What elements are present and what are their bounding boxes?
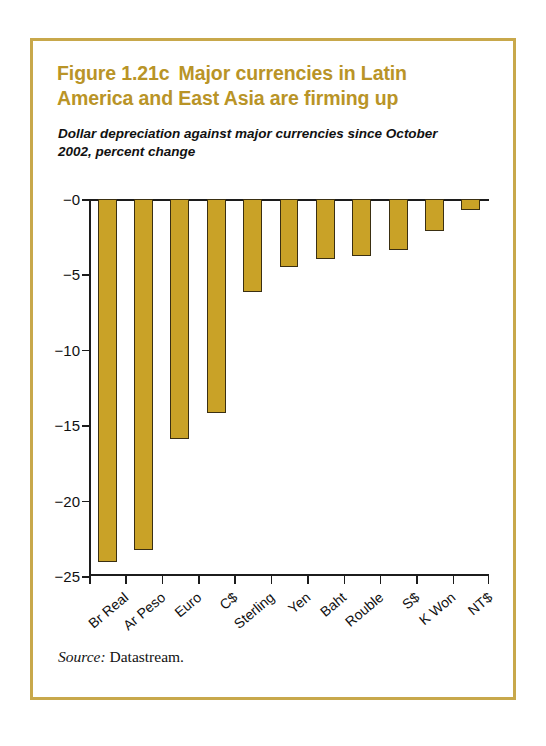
x-tick-mark	[198, 576, 200, 584]
x-tick-mark	[380, 576, 382, 584]
x-tick-mark	[344, 576, 346, 584]
chart-canvas: −0−5−10−15−20−25 Br RealAr PesoEuroC$Ste…	[33, 41, 513, 697]
x-tick-label: NT$	[465, 589, 496, 618]
x-tick-mark	[488, 576, 490, 584]
y-tick-label: −10	[55, 341, 80, 358]
x-tick-mark	[307, 576, 309, 584]
y-tick-mark	[82, 274, 89, 276]
bar	[352, 199, 371, 256]
source-note: Source: Datastream.	[58, 648, 184, 666]
plot-area: −0−5−10−15−20−25 Br RealAr PesoEuroC$Ste…	[89, 199, 489, 576]
source-value: Datastream.	[110, 648, 184, 665]
x-tick-label: Euro	[171, 589, 204, 620]
x-tick-mark	[162, 576, 164, 584]
x-axis-line	[89, 574, 489, 576]
bar	[280, 199, 299, 267]
y-tick-mark	[82, 425, 89, 427]
x-tick-label: Rouble	[342, 589, 386, 630]
bar	[98, 199, 117, 562]
source-label: Source:	[58, 648, 106, 665]
bar	[316, 199, 335, 259]
figure-frame: Figure 1.21cMajor currencies in Latin Am…	[30, 38, 516, 700]
y-tick-mark	[82, 199, 89, 201]
bar	[425, 199, 444, 231]
bar	[207, 199, 226, 413]
x-tick-mark	[234, 576, 236, 584]
bar	[243, 199, 262, 292]
y-tick-mark	[82, 350, 89, 352]
x-tick-label: C$	[217, 589, 241, 613]
x-tick-mark	[125, 576, 127, 584]
x-tick-mark	[271, 576, 273, 584]
bar	[461, 199, 480, 210]
x-tick-label: Yen	[285, 589, 313, 616]
y-tick-label: −25	[55, 568, 80, 585]
y-axis-line	[89, 199, 91, 576]
x-tick-mark	[416, 576, 418, 584]
bar	[170, 199, 189, 439]
bar	[134, 199, 153, 550]
y-tick-label: −5	[63, 266, 80, 283]
x-tick-mark	[89, 576, 91, 584]
y-tick-label: −15	[55, 417, 80, 434]
x-tick-mark	[453, 576, 455, 584]
x-tick-label: S$	[399, 589, 422, 612]
y-tick-mark	[82, 501, 89, 503]
bar	[389, 199, 408, 250]
y-tick-label: −20	[55, 492, 80, 509]
x-tick-label: K Won	[416, 589, 458, 628]
y-tick-label: −0	[63, 191, 80, 208]
x-tick-label: Sterling	[230, 589, 277, 632]
y-tick-mark	[82, 576, 89, 578]
